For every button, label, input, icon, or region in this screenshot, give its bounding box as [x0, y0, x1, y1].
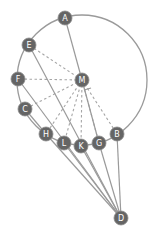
point-label: E	[26, 41, 31, 50]
segment-MF	[18, 79, 82, 80]
point-G: G	[92, 136, 106, 150]
point-H: H	[39, 127, 53, 141]
point-C: C	[18, 102, 32, 116]
point-label: D	[118, 214, 124, 223]
point-B: B	[110, 127, 124, 141]
point-label: C	[22, 105, 28, 114]
point-label: F	[16, 75, 21, 84]
segment-MC	[25, 80, 82, 109]
segment-ML	[64, 80, 82, 143]
segment-MB	[82, 80, 117, 134]
geometry-diagram: AEFCHLKGBMD	[0, 0, 157, 239]
point-A: A	[58, 11, 72, 25]
point-F: F	[11, 72, 25, 86]
dashed-radii	[18, 45, 117, 146]
segment-KD	[81, 146, 121, 218]
point-label: H	[43, 130, 49, 139]
point-label: A	[62, 14, 68, 23]
point-label: K	[78, 142, 84, 151]
segment-LD	[64, 143, 121, 218]
point-label: M	[79, 76, 86, 85]
segment-MK	[81, 80, 82, 146]
point-E: E	[22, 38, 36, 52]
point-L: L	[57, 136, 71, 150]
point-D: D	[114, 211, 128, 225]
point-label: L	[62, 139, 67, 148]
point-label: B	[114, 130, 120, 139]
point-M: M	[75, 73, 89, 87]
point-K: K	[74, 139, 88, 153]
point-label: G	[96, 139, 102, 148]
